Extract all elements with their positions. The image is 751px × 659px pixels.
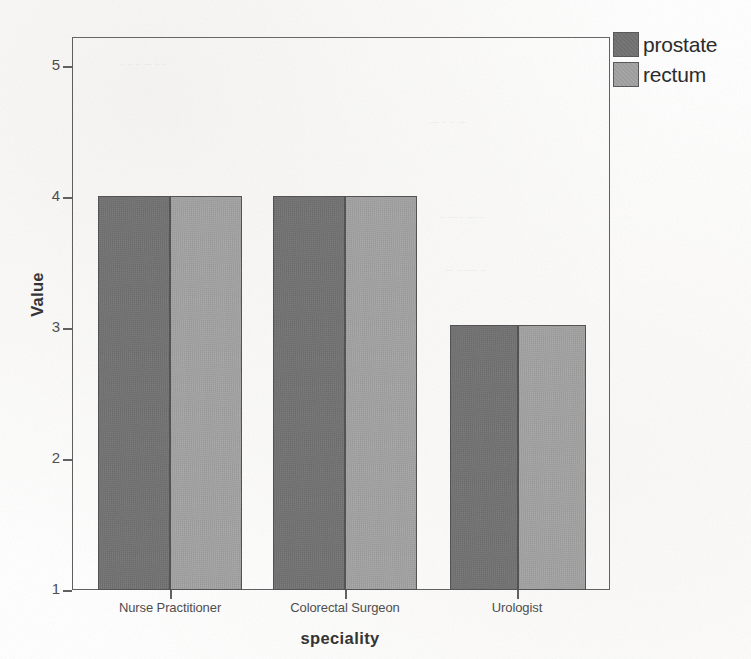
legend-entry-prostate: prostate — [613, 29, 717, 59]
legend-label-prostate: prostate — [643, 34, 717, 55]
legend-label-rectum: rectum — [643, 64, 706, 85]
x-axis-tick-label-nurse-practitioner: Nurse Practitioner — [90, 600, 250, 615]
bar-prostate-nurse-practitioner — [98, 196, 170, 590]
y-axis-tick-3: 3 — [54, 328, 72, 329]
bar-prostate-colorectal-surgeon — [273, 196, 345, 590]
x-axis-tick-mark — [517, 590, 519, 599]
bar-chart-figure: 5 4 3 2 1 Value Nurse Practitioner Color… — [0, 0, 751, 659]
y-axis-tick-label: 2 — [52, 449, 60, 466]
y-axis-tick-label: 1 — [52, 580, 60, 597]
y-axis-tick-2: 2 — [54, 459, 72, 460]
chart-legend: prostate rectum — [613, 29, 717, 89]
x-axis-tick-mark — [345, 590, 347, 599]
y-axis-tick-mark — [63, 197, 72, 199]
legend-swatch-prostate-icon — [613, 32, 639, 57]
y-axis-tick-mark — [63, 66, 72, 68]
y-axis-tick-1: 1 — [54, 590, 72, 591]
y-axis-tick-label: 5 — [52, 56, 60, 73]
bar-rectum-nurse-practitioner — [170, 196, 242, 590]
y-axis-tick-5: 5 — [54, 66, 72, 67]
y-axis-title: Value — [28, 250, 47, 340]
y-axis-tick-mark — [63, 590, 72, 592]
x-axis-tick-label-urologist: Urologist — [442, 600, 592, 615]
x-axis-title: speciality — [0, 629, 680, 648]
plot-area — [72, 37, 610, 590]
x-axis-tick-mark — [170, 590, 172, 599]
bar-rectum-colorectal-surgeon — [345, 196, 417, 590]
bar-rectum-urologist — [518, 325, 586, 590]
y-axis-tick-4: 4 — [54, 197, 72, 198]
bar-prostate-urologist — [450, 325, 518, 590]
y-axis-tick-mark — [63, 328, 72, 330]
legend-swatch-rectum-icon — [613, 62, 639, 87]
y-axis-tick-label: 3 — [52, 318, 60, 335]
y-axis-tick-label: 4 — [52, 187, 60, 204]
y-axis-tick-mark — [63, 459, 72, 461]
x-axis-tick-label-colorectal-surgeon: Colorectal Surgeon — [265, 600, 425, 615]
legend-entry-rectum: rectum — [613, 59, 717, 89]
